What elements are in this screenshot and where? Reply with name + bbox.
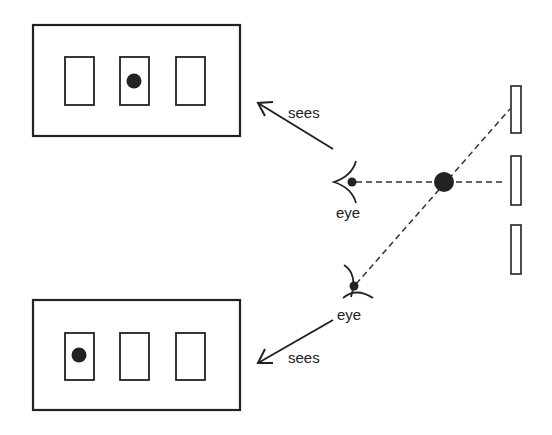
diagram-canvas: eye eye sees sees	[0, 0, 552, 435]
bottom-slot-3	[176, 333, 205, 380]
top-view-panel	[33, 25, 240, 136]
bottom-view-panel	[33, 300, 240, 410]
bottom-slot-2	[120, 333, 149, 380]
object-dot	[434, 172, 454, 192]
top-slot-1	[65, 57, 94, 105]
upper-eye-icon	[334, 161, 357, 203]
bottom-view-dot	[72, 348, 87, 363]
lower-sees-label: sees	[288, 349, 320, 366]
sight-line-lower-eye	[356, 109, 510, 284]
upper-sees-label: sees	[288, 104, 320, 121]
wall-slot-3	[511, 225, 521, 274]
lower-eye-label: eye	[337, 306, 361, 323]
wall-slots	[511, 86, 521, 274]
bottom-view-frame	[33, 300, 240, 410]
wall-slot-1	[511, 86, 521, 133]
wall-slot-2	[511, 156, 521, 205]
top-slot-3	[176, 57, 205, 105]
upper-eye-label: eye	[336, 204, 360, 221]
top-view-dot	[127, 74, 142, 89]
